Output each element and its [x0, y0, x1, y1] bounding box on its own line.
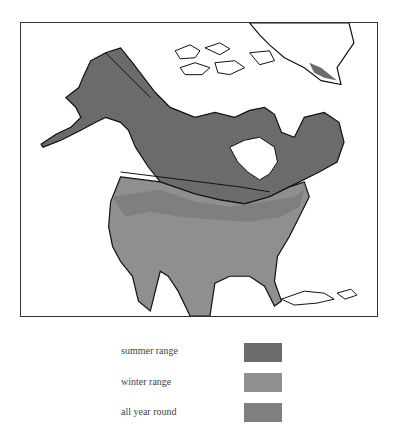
legend-label-winter-range: winter range — [121, 376, 171, 387]
legend-swatch-summer-range — [244, 343, 282, 362]
legend-label-all-year-round: all year round — [121, 406, 177, 417]
legend-swatch-all-year-round — [244, 403, 282, 422]
legend-swatch-winter-range — [244, 373, 282, 392]
legend-label-summer-range: summer range — [121, 345, 178, 356]
legend: summer range winter range all year round — [0, 0, 399, 435]
